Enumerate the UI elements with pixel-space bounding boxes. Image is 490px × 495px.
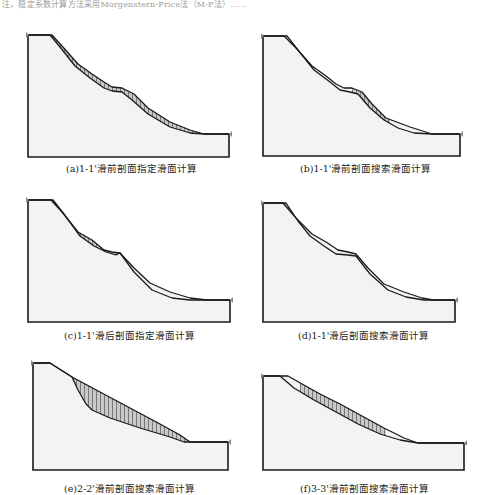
section-panel-b bbox=[261, 33, 463, 156]
caption-panel-d: (d)1-1'滑后剖面搜索滑面计算 bbox=[298, 328, 429, 342]
caption-panel-a: (a)1-1'滑前剖面指定滑面计算 bbox=[66, 161, 197, 175]
soil-body bbox=[28, 200, 230, 322]
section-panel-e bbox=[31, 360, 231, 470]
caption-panel-c: (c)1-1'滑后剖面指定滑面计算 bbox=[64, 328, 195, 342]
section-panel-d bbox=[261, 200, 458, 322]
caption-panel-e: (e)2-2'滑前剖面搜索滑面计算 bbox=[64, 481, 195, 495]
caption-panel-f: (f)3-3'滑前剖面搜索滑面计算 bbox=[300, 481, 429, 495]
caption-panel-b: (b)1-1'滑前剖面搜索滑面计算 bbox=[300, 161, 431, 175]
figure-canvas bbox=[0, 0, 490, 495]
soil-body bbox=[263, 203, 455, 322]
section-panel-a bbox=[26, 32, 232, 157]
section-panel-f bbox=[261, 373, 467, 470]
section-panel-c bbox=[26, 197, 233, 322]
